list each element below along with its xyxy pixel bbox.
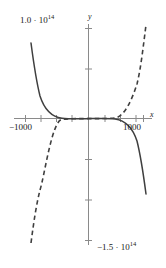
function-plot: 1.0 · 1014 −1.5 · 1014 −1000 1000 y x — [0, 0, 166, 268]
plot-canvas — [0, 0, 166, 268]
y-axis-min-label: −1.5 · 1014 — [97, 243, 136, 252]
x-axis-min-label: −1000 — [9, 123, 32, 132]
x-axis-name-label: x — [150, 111, 154, 119]
x-axis-max-label: 1000 — [123, 123, 141, 132]
y-axis-max-label: 1.0 · 1014 — [20, 16, 54, 25]
y-axis-name-label: y — [88, 13, 92, 21]
